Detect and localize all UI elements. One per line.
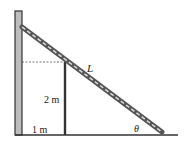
ladder	[22, 27, 162, 132]
angle-label: θ	[134, 123, 139, 134]
post-distance-label: 1 m	[32, 124, 48, 135]
ladder-length-label: L	[86, 62, 93, 74]
wall	[15, 11, 22, 135]
post-height-label: 2 m	[44, 94, 60, 105]
ladder-diagram: L 2 m 1 m θ	[0, 0, 190, 143]
